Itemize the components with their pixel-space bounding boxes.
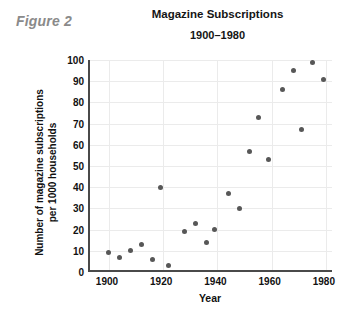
data-point [247,149,252,154]
y-axis-tick-label: 70 [58,118,84,129]
gridline-horizontal [90,102,332,103]
y-axis-tick-label: 40 [58,182,84,193]
gridline-horizontal [90,145,332,146]
gridline-horizontal [90,60,332,61]
data-point [291,68,296,73]
data-point [321,77,326,82]
gridline-horizontal [90,166,332,167]
gridline-horizontal [90,124,332,125]
data-point [117,255,122,260]
data-point [299,127,304,132]
y-axis-tick-label: 50 [58,161,84,172]
data-point [237,206,242,211]
y-axis-tick-label: 0 [58,267,84,278]
gridline-horizontal [90,208,332,209]
y-axis-tick-label: 80 [58,97,84,108]
gridline-vertical [109,60,110,270]
data-point [226,191,231,196]
y-axis-title-wrapper: Number of magazine subscriptions per 100… [14,55,54,270]
x-axis-tick-label: 1980 [302,276,346,287]
gridline-vertical [272,60,273,270]
y-axis-tick-labels: 0102030405060708090100 [56,60,84,272]
data-point [150,257,155,262]
y-axis-tick-label: 100 [58,55,84,66]
x-axis-tick-label: 1900 [85,276,129,287]
x-axis-tick-label: 1940 [193,276,237,287]
data-point [280,87,285,92]
data-point [158,185,163,190]
x-axis-tick-label: 1920 [139,276,183,287]
data-point [166,263,171,268]
gridline-vertical [326,60,327,270]
data-point [128,248,133,253]
gridline-vertical [217,60,218,270]
y-axis-tick-label: 90 [58,76,84,87]
gridline-horizontal [90,81,332,82]
gridline-horizontal [90,251,332,252]
data-point [139,242,144,247]
x-axis-tick-labels: 19001920194019601980 [88,276,332,290]
y-axis-title-line-1: Number of magazine subscriptions [34,68,47,278]
chart-subtitle: 1900–1980 [110,29,325,41]
y-axis-tick-label: 10 [58,245,84,256]
data-point [256,115,261,120]
data-point [193,221,198,226]
data-point [182,229,187,234]
y-axis-tick-label: 20 [58,224,84,235]
data-point [204,240,209,245]
plot-area [88,60,332,272]
y-axis-tick-label: 60 [58,139,84,150]
figure-label: Figure 2 [16,13,72,29]
data-point [310,60,315,65]
x-axis-tick-label: 1960 [248,276,292,287]
y-axis-title: Number of magazine subscriptions per 100… [34,68,59,278]
data-point [106,250,111,255]
chart-title: Magazine Subscriptions [110,8,325,20]
x-axis-title: Year [88,292,332,304]
gridline-vertical [163,60,164,270]
gridline-horizontal [90,230,332,231]
gridline-horizontal [90,187,332,188]
y-axis-tick-label: 30 [58,203,84,214]
